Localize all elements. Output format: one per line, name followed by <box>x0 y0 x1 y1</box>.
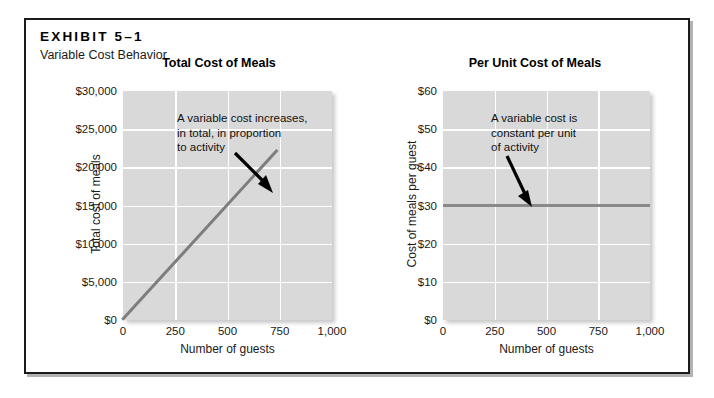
ytick-label: $0 <box>104 314 117 326</box>
annotation-right-line-3: of activity <box>491 140 577 155</box>
annotation-left-line-1: A variable cost increases, <box>177 111 307 126</box>
exhibit-frame: EXHIBIT 5–1 Variable Cost Behavior Total… <box>24 18 690 374</box>
xtick-label: 1,000 <box>318 325 347 337</box>
ytick-label: $10 <box>418 276 437 288</box>
yaxis-title-right: Cost of meals per guest <box>405 104 419 304</box>
xaxis-title-left: Number of guests <box>123 342 332 356</box>
xtick-label: 750 <box>589 325 608 337</box>
ytick-label: $40 <box>418 161 437 173</box>
ytick-label: $50 <box>418 123 437 135</box>
ytick-label: $60 <box>418 85 437 97</box>
plot-area-left: A variable cost increases, in total, in … <box>123 91 332 320</box>
xtick-label: 1,000 <box>636 325 665 337</box>
xtick-label: 250 <box>485 325 504 337</box>
xtick-label: 500 <box>218 325 237 337</box>
exhibit-label: EXHIBIT 5–1 <box>40 28 440 45</box>
xtick-label: 250 <box>166 325 185 337</box>
xtick-label: 750 <box>270 325 289 337</box>
ytick-label: $0 <box>424 314 437 326</box>
xtick-label: 0 <box>440 325 446 337</box>
chart-per-unit-cost-of-meals: Per Unit Cost of Meals A variable cost i… <box>366 56 678 356</box>
annotation-left: A variable cost increases, in total, in … <box>177 111 307 155</box>
annotation-right: A variable cost is constant per unit of … <box>491 111 577 155</box>
plot-area-right: A variable cost is constant per unit of … <box>443 91 650 320</box>
chart-title-right: Per Unit Cost of Meals <box>366 56 678 70</box>
annotation-arrow-left-icon <box>233 151 279 199</box>
ytick-label: $30 <box>418 200 437 212</box>
chart-title-left: Total Cost of Meals <box>42 56 360 70</box>
annotation-left-line-2: in total, in proportion <box>177 126 307 141</box>
xtick-label: 500 <box>537 325 556 337</box>
ytick-label: $30,000 <box>75 85 117 97</box>
chart-total-cost-of-meals: Total Cost of Meals A variable cost incr… <box>42 56 360 356</box>
annotation-right-line-2: constant per unit <box>491 126 577 141</box>
xtick-label: 0 <box>120 325 126 337</box>
series-line-per-unit-cost <box>443 204 650 207</box>
annotation-right-line-1: A variable cost is <box>491 111 577 126</box>
xaxis-title-right: Number of guests <box>443 342 650 356</box>
annotation-arrow-right-icon <box>505 154 545 212</box>
ytick-label: $20 <box>418 238 437 250</box>
yaxis-title-left: Total cost of meals <box>89 104 103 304</box>
